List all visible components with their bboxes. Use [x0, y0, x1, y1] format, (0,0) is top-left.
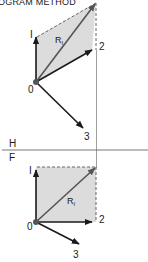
upper-origin-label: 0	[28, 84, 34, 95]
lower-origin-label: 0	[27, 221, 33, 232]
upper-vector-3	[36, 82, 83, 128]
lower-label-1: I	[29, 165, 32, 176]
upper-origin-point	[33, 79, 39, 85]
lower-label-2: 2	[99, 214, 105, 225]
upper-label-1: I	[30, 29, 33, 40]
upper-label-3: 3	[84, 131, 90, 142]
lower-label-3: 3	[73, 249, 79, 260]
lower-vector-3	[36, 222, 79, 244]
lower-view: I 2 3 0 RI	[27, 165, 105, 260]
parallelogram-diagram: I 2 3 0 RI H F I 2 3 0 RI	[0, 0, 148, 262]
upper-label-2: 2	[99, 41, 105, 52]
upper-view: I 2 3 0 RI	[28, 3, 105, 142]
lower-origin-point	[33, 219, 39, 225]
view-label-f: F	[9, 152, 15, 163]
view-label-h: H	[9, 138, 16, 149]
